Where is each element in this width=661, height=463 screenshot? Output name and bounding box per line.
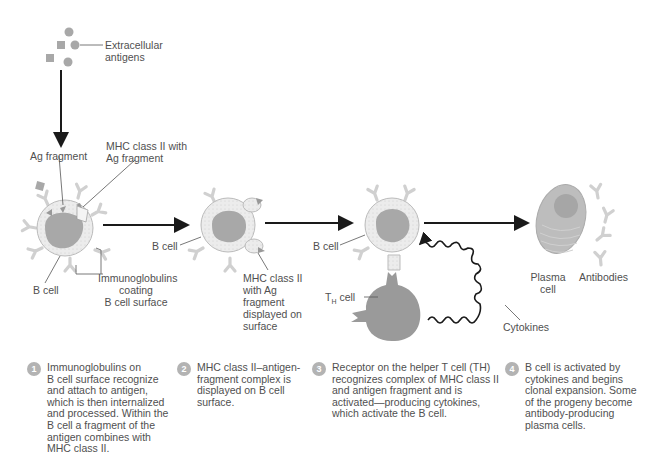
b-cell-1 [22,156,135,283]
label-b-cell-3: B cell [313,240,339,252]
label-mhc-displayed: MHC class II with Ag fragment displayed … [243,272,303,332]
cytokine-signal [420,241,481,323]
label-b-cell-2: B cell [152,240,178,252]
extracellular-antigens [46,28,103,67]
step-text: Receptor on the helper T cell (TH) recog… [332,362,499,420]
step-text: MHC class II–antigen- fragment complex i… [197,362,300,408]
label-plasma-cell: Plasma cell [528,271,568,295]
label-mhc-with-ag: MHC class II with Ag fragment [106,140,187,164]
step-text: B cell is activated by cytokines and beg… [525,362,637,432]
b-cell-3 [340,186,419,270]
label-ag-fragment: Ag fragment [30,150,87,162]
label-cytokines: Cytokines [503,321,549,333]
step-badge: 2 [177,362,191,376]
label-immunoglobulins: Immunoglobulins coating B cell surface [98,272,174,308]
antibodies [591,184,613,265]
label-th-cell: TH cell [325,291,355,308]
step-badge: 3 [312,362,326,376]
label-antibodies: Antibodies [579,271,628,283]
step-badge: 4 [505,362,519,376]
helper-t-cell [351,272,420,341]
step-badge: 1 [27,362,41,376]
label-b-cell-1: B cell [33,284,59,296]
label-extracellular-antigens: Extracellular antigens [105,39,163,63]
plasma-cell [529,179,593,259]
b-cell-2 [180,189,268,271]
step-text: Immunoglobulins on B cell surface recogn… [47,362,168,455]
